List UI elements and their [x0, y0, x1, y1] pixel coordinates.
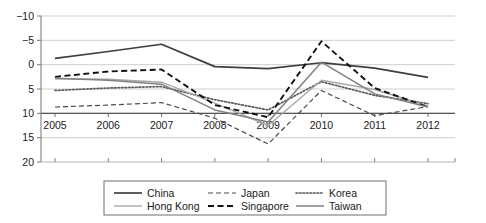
x-tick-label: 2005	[43, 119, 67, 131]
x-tick-label: 2010	[310, 119, 334, 131]
y-tick-label: 20	[22, 156, 34, 168]
y-tick-label: 15	[22, 131, 34, 143]
y-tick-label: 10	[22, 107, 34, 119]
x-tick-label: 2006	[97, 119, 121, 131]
line-chart: 20151050−5−10 20052006200720082009201020…	[0, 0, 486, 223]
legend-label-singapore: Singapore	[241, 200, 289, 212]
y-tick-label: 0	[28, 58, 34, 70]
legend-label-hong-kong: Hong Kong	[147, 200, 200, 212]
y-tick-label: 5	[28, 83, 34, 95]
legend-label-taiwan: Taiwan	[329, 200, 362, 212]
y-tick-label: −10	[16, 10, 34, 22]
x-tick-label: 2007	[150, 119, 174, 131]
x-tick-label: 2012	[416, 119, 440, 131]
legend-label-korea: Korea	[329, 187, 357, 199]
legend-label-japan: Japan	[241, 187, 270, 199]
y-tick-label: −5	[22, 34, 34, 46]
chart-canvas: 20151050−5−10 20052006200720082009201020…	[0, 0, 486, 223]
legend-label-china: China	[147, 187, 175, 199]
x-tick-label: 2011	[363, 119, 386, 131]
chart-legend: ChinaJapanKoreaHong KongSingaporeTaiwan	[104, 181, 386, 215]
x-tick-label: 2008	[203, 119, 227, 131]
